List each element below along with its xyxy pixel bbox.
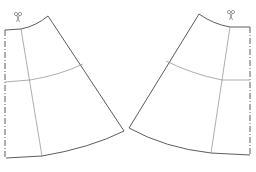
right-hem-curve (129, 128, 250, 155)
right-skirt-panel (129, 10, 250, 155)
left-grain-line (21, 29, 42, 156)
right-hip-line (166, 61, 250, 80)
left-hem-curve (6, 131, 124, 158)
left-waist-curve (5, 16, 48, 30)
scissors-icon (227, 10, 234, 20)
scissors-icon (14, 12, 21, 22)
right-grain-line (211, 27, 230, 153)
right-waist-curve (199, 14, 250, 27)
left-skirt-panel (5, 12, 124, 158)
left-hip-line (5, 64, 83, 82)
pattern-canvas (0, 0, 256, 172)
